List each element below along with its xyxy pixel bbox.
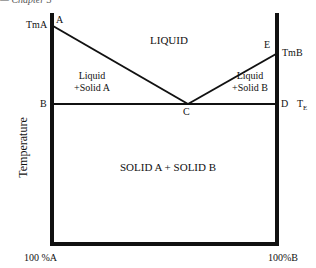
tma-label: TmA <box>26 19 47 31</box>
point-a-label: A <box>56 14 63 26</box>
liquid-solid-a-label: Liquid +Solid A <box>64 70 120 94</box>
liquid-solid-b-label: Liquid +Solid B <box>222 70 278 94</box>
x-right-label: 100%B <box>268 252 298 264</box>
y-axis-label: Temperature <box>16 103 31 193</box>
solid-region-label: SOLID A + SOLID B <box>120 161 216 173</box>
point-c-label: C <box>183 106 190 118</box>
point-d-label: D <box>281 98 288 110</box>
point-b-label: B <box>40 98 47 110</box>
te-label: TE <box>297 98 307 114</box>
x-left-label: 100 %A <box>24 252 57 264</box>
point-e-label: E <box>264 39 270 51</box>
tmb-label: TmB <box>282 47 303 59</box>
liquid-region-label: LIQUID <box>150 34 188 46</box>
